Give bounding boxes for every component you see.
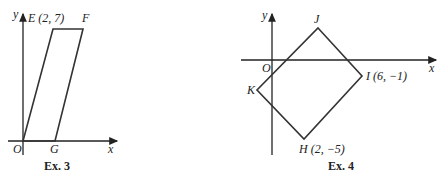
vertex-label-i: I (6, −1) — [365, 69, 407, 83]
vertex-label-k: K — [246, 83, 256, 97]
vertex-label-h: H (2, −5) — [298, 142, 345, 156]
vertex-label-e: E (2, 7) — [27, 11, 64, 25]
origin-label: O — [13, 142, 22, 156]
vertex-label-j: J — [314, 12, 320, 26]
vertex-label-g: G — [50, 142, 59, 156]
caption-ex3: Ex. 3 — [44, 159, 70, 173]
caption-ex4: Ex. 4 — [328, 159, 354, 173]
parallelogram-oefg — [23, 29, 83, 141]
rectangle-hijk — [257, 28, 362, 139]
vertex-label-f: F — [81, 11, 90, 25]
y-axis-label: y — [261, 8, 268, 22]
origin-label: O — [262, 61, 271, 75]
figure-ex3: y E (2, 7) F O G x Ex. 3 — [8, 7, 117, 173]
x-axis-label: x — [107, 142, 114, 156]
diagrams: y E (2, 7) F O G x Ex. 3 y J O x I (6, −… — [0, 0, 444, 182]
x-axis-label: x — [428, 61, 435, 75]
y-axis-label: y — [12, 7, 19, 21]
figure-ex4: y J O x I (6, −1) K H (2, −5) Ex. 4 — [241, 8, 436, 173]
